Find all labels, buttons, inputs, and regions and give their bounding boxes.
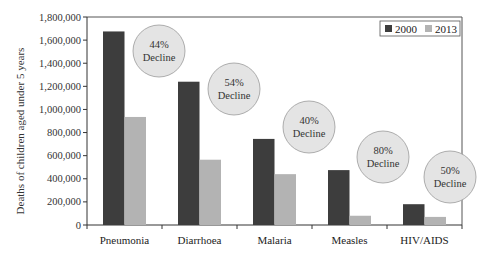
legend-swatch-2000 bbox=[385, 25, 392, 32]
bar-2000 bbox=[328, 170, 350, 225]
svg-text:50%: 50% bbox=[440, 165, 460, 176]
svg-text:Decline: Decline bbox=[143, 52, 176, 63]
x-category-label: Pneumonia bbox=[100, 234, 150, 246]
decline-bubble: 44%Decline bbox=[133, 25, 185, 77]
x-category-label: Measles bbox=[331, 234, 367, 246]
decline-bubble: 50%Decline bbox=[424, 151, 476, 203]
decline-bubble: 54%Decline bbox=[208, 63, 260, 115]
legend-label-2000: 2000 bbox=[395, 23, 418, 35]
legend-label-2013: 2013 bbox=[435, 23, 458, 35]
legend: 20002013 bbox=[380, 21, 460, 36]
bar-2000 bbox=[403, 204, 425, 225]
svg-text:Decline: Decline bbox=[218, 90, 251, 101]
y-tick-label: 200,000 bbox=[47, 196, 81, 207]
y-axis: 0200,000400,000600,000800,0001,000,0001,… bbox=[39, 12, 462, 231]
y-tick-label: 1,200,000 bbox=[39, 81, 81, 92]
y-tick-label: 400,000 bbox=[47, 173, 81, 184]
svg-text:Decline: Decline bbox=[434, 178, 467, 189]
y-tick-label: 0 bbox=[76, 220, 81, 231]
y-tick-label: 1,000,000 bbox=[39, 104, 81, 115]
bar-2000 bbox=[253, 139, 275, 225]
y-tick-label: 1,400,000 bbox=[39, 58, 81, 69]
decline-bubble: 40%Decline bbox=[283, 101, 335, 153]
y-tick-label: 800,000 bbox=[47, 127, 81, 138]
bar-2013 bbox=[200, 160, 222, 225]
y-tick-label: 1,800,000 bbox=[39, 12, 81, 23]
bar-chart: 0200,000400,000600,000800,0001,000,0001,… bbox=[0, 0, 487, 258]
svg-text:80%: 80% bbox=[373, 145, 393, 156]
y-axis-label: Deaths of children aged under 5 years bbox=[14, 48, 26, 215]
x-axis: PneumoniaDiarrhoeaMalariaMeaslesHIV/AIDS bbox=[87, 225, 462, 246]
bar-2013 bbox=[350, 216, 372, 225]
x-category-label: HIV/AIDS bbox=[400, 234, 448, 246]
x-category-label: Diarrhoea bbox=[178, 234, 222, 246]
bar-2000 bbox=[178, 82, 200, 225]
bar-2013 bbox=[275, 174, 297, 225]
svg-text:Decline: Decline bbox=[293, 128, 326, 139]
decline-bubble: 80%Decline bbox=[357, 131, 409, 183]
y-tick-label: 1,600,000 bbox=[39, 35, 81, 46]
bar-2000 bbox=[103, 31, 125, 225]
svg-text:54%: 54% bbox=[224, 77, 244, 88]
bar-2013 bbox=[425, 217, 447, 225]
bar-2013 bbox=[125, 117, 147, 225]
svg-text:Decline: Decline bbox=[367, 158, 400, 169]
y-tick-label: 600,000 bbox=[47, 150, 81, 161]
svg-text:44%: 44% bbox=[149, 39, 169, 50]
svg-text:40%: 40% bbox=[299, 115, 319, 126]
legend-swatch-2013 bbox=[425, 25, 432, 32]
x-category-label: Malaria bbox=[257, 234, 291, 246]
